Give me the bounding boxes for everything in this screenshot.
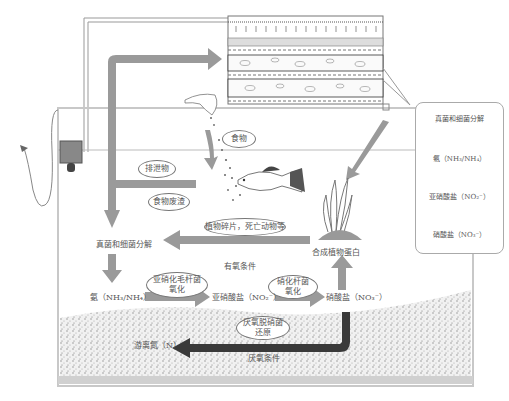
bubble-leftover-food: 食物废渣 [148,193,190,211]
fish [238,166,305,192]
anaerobic-label: 厌氧条件 [248,354,280,364]
top-filter [228,16,410,105]
side-step-nitrite: 亚硝酸盐（NO₂⁻） [416,191,503,201]
node-free-nitrogen: 游离氮（N） [134,341,181,351]
pump [20,110,82,206]
bubble-denitrifying: 厌氧脱硝菌 还原 [236,316,290,340]
node-decomposition: 真菌和细菌分解 [96,240,152,250]
filter-detail-panel: 真菌和细菌分解 氨（NH₃/NH₄） 亚硝酸盐（NO₂⁻） 硝酸盐（NO₃⁻） [415,102,504,254]
side-step-nitrate: 硝酸盐（NO₃⁻） [416,229,503,239]
plant [318,178,362,240]
node-ammonia: 氨（NH₃/NH₄） [90,293,151,303]
aerobic-label: 有氧条件 [224,262,256,272]
side-step-decomposition: 真菌和细菌分解 [416,113,503,123]
bubble-plant-debris: 植物碎片，死亡动物等 [204,218,286,236]
bubble-waste: 排泄物 [138,160,176,178]
node-plant-protein: 合成植物蛋白 [312,248,360,258]
node-nitrite: 亚硝酸盐（NO₂⁻） [212,293,281,303]
side-step-ammonia: 氨（NH₃/NH₄） [416,153,503,163]
node-nitrate: 硝酸盐（NO₃⁻） [326,293,387,303]
bubble-food: 食物 [222,130,256,148]
hand [185,94,217,115]
bubble-nitrosomonas: 亚硝化毛杆菌 氧化 [146,272,208,298]
